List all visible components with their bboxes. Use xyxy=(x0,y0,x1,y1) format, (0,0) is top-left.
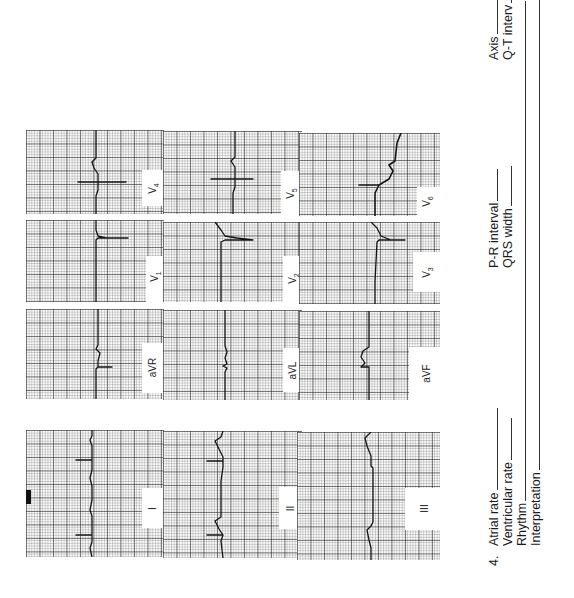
lead-label-ii: II xyxy=(285,489,298,529)
ecg-panel-v1: V1 xyxy=(26,220,164,302)
lead-label-avr: aVR xyxy=(147,348,160,388)
blank-line[interactable] xyxy=(524,1,526,501)
blank-line[interactable] xyxy=(538,0,540,470)
ecg-panel-avl: aVL xyxy=(163,310,302,400)
ecg-panel-v6: V6 xyxy=(299,133,440,216)
ecg-trace-v1 xyxy=(26,220,164,302)
field-ventricular-rate[interactable]: Ventricular rate xyxy=(501,418,515,546)
lead-label-v3: V3 xyxy=(421,253,434,293)
blank-line[interactable] xyxy=(510,0,512,3)
ecg-trace-avl xyxy=(163,310,302,400)
ecg-panel-v5: V5 xyxy=(163,131,302,214)
lead-label-v6: V6 xyxy=(421,182,434,217)
blank-line[interactable] xyxy=(496,409,498,491)
blank-line[interactable] xyxy=(510,166,512,206)
lead-label-v4: V4 xyxy=(147,169,160,209)
lead-label-v2: V2 xyxy=(287,259,300,299)
ecg-panel-avf: aVF xyxy=(299,311,440,400)
field-pr-interval[interactable]: P-R interval xyxy=(487,169,501,268)
ecg-panel-ii: II xyxy=(163,431,302,558)
ecg-panel-iii: III xyxy=(297,432,440,560)
field-interpretation[interactable]: Interpretation xyxy=(529,0,543,546)
blank-line[interactable] xyxy=(496,0,498,34)
lead-label-i: I xyxy=(147,489,160,529)
field-qt-interval[interactable]: Q-T interv xyxy=(501,0,515,60)
blank-line[interactable] xyxy=(510,418,512,460)
field-qrs-width[interactable]: QRS width xyxy=(501,166,515,268)
ecg-panel-v3: V3 xyxy=(299,222,440,304)
calibration-mark xyxy=(26,490,31,504)
field-rhythm[interactable]: Rhythm xyxy=(515,1,529,546)
lead-label-v1: V1 xyxy=(149,257,162,297)
ecg-trace-v2 xyxy=(163,222,302,302)
lead-label-v5: V5 xyxy=(285,174,298,214)
question-number: 4. xyxy=(487,556,501,566)
field-atrial-rate[interactable]: Atrial rate xyxy=(487,409,501,547)
ecg-panel-i: I xyxy=(26,430,164,557)
ecg-panel-v2: V2 xyxy=(163,222,302,302)
lead-label-avl: aVL xyxy=(287,351,300,391)
ecg-panel-avr: aVR xyxy=(26,309,164,399)
lead-label-avf: aVF xyxy=(421,354,434,394)
blank-line[interactable] xyxy=(496,169,498,201)
ecg-panel-v4: V4 xyxy=(26,130,164,214)
lead-label-iii: III xyxy=(419,489,432,529)
field-axis[interactable]: Axis xyxy=(487,0,501,60)
